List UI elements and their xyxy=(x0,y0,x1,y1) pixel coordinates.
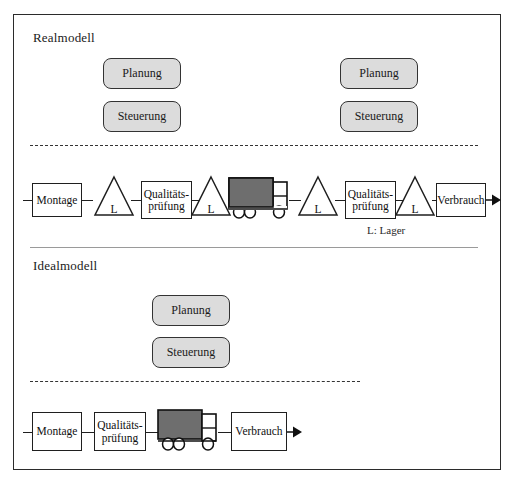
qp-line2: prüfung xyxy=(144,200,189,212)
storage-triangle-l-4: L xyxy=(394,175,436,217)
section-title-idealmodell: Idealmodell xyxy=(33,258,97,274)
process-box-verbrauch-real: Verbrauch xyxy=(436,183,486,217)
dashed-separator-realmodell xyxy=(30,145,478,146)
legend-lager: L: Lager xyxy=(367,224,405,236)
chain-connector xyxy=(82,200,93,201)
process-box-montage-real: Montage xyxy=(32,183,82,217)
section-divider xyxy=(30,247,478,248)
storage-triangle-label: L xyxy=(297,203,339,215)
storage-triangle-l-3: L xyxy=(297,175,339,217)
process-box-montage-ideal: Montage xyxy=(32,412,82,451)
chain-connector xyxy=(23,432,32,433)
section-title-realmodell: Realmodell xyxy=(33,30,95,46)
storage-triangle-l-1: L xyxy=(93,175,135,217)
process-box-qualitaetspruefung-real-2: Qualitäts- prüfung xyxy=(345,181,396,219)
qp-line2: prüfung xyxy=(348,200,393,212)
chain-connector xyxy=(335,200,345,201)
truck-icon-ideal xyxy=(157,408,223,452)
storage-triangle-label: L xyxy=(190,203,232,215)
qp-line1: Qualitäts- xyxy=(144,188,189,200)
storage-triangle-l-2: L xyxy=(190,175,232,217)
figure-frame xyxy=(13,14,501,470)
arrow-right-icon-ideal xyxy=(287,425,303,439)
control-box-planung-left: Planung xyxy=(103,58,181,89)
figure-canvas: Realmodell Planung Steuerung Planung Ste… xyxy=(0,0,515,486)
chain-connector xyxy=(131,200,141,201)
control-box-steuerung-left: Steuerung xyxy=(103,101,181,132)
chain-connector xyxy=(218,432,232,433)
process-box-qualitaetspruefung-ideal: Qualitäts- prüfung xyxy=(94,412,146,451)
control-box-planung-right: Planung xyxy=(340,58,418,89)
control-box-steuerung-ideal: Steuerung xyxy=(152,337,230,368)
qp-line1: Qualitäts- xyxy=(348,188,393,200)
arrow-right-icon-real xyxy=(486,193,502,207)
storage-triangle-label: L xyxy=(93,203,135,215)
qp-line2: prüfung xyxy=(97,432,142,444)
process-box-qualitaetspruefung-real-1: Qualitäts- prüfung xyxy=(141,181,192,219)
process-box-verbrauch-ideal: Verbrauch xyxy=(231,412,287,451)
storage-triangle-label: L xyxy=(394,203,436,215)
qp-line1: Qualitäts- xyxy=(97,419,142,431)
control-box-steuerung-right: Steuerung xyxy=(340,101,418,132)
chain-connector xyxy=(23,200,32,201)
chain-connector xyxy=(82,432,94,433)
truck-icon-real xyxy=(228,176,294,220)
dashed-separator-idealmodell xyxy=(30,381,360,382)
control-box-planung-ideal: Planung xyxy=(152,295,230,326)
